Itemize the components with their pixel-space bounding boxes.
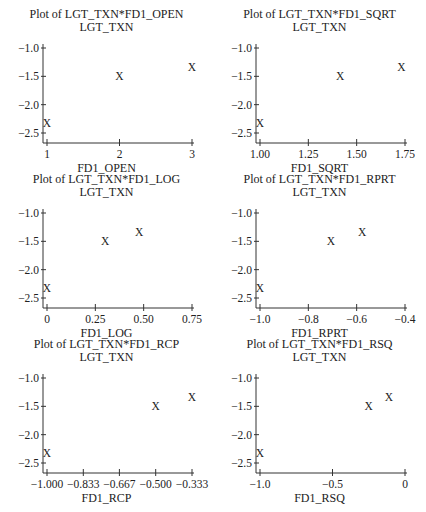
scatter-plot-panel: Plot of LGT_TXN*FD1_RCPLGT_TXN−1.0−1.5−2…: [0, 338, 213, 506]
x-tick-label: 1.50: [347, 148, 367, 160]
y-tick-label: −2.0: [18, 99, 39, 111]
y-tick-label: −1.0: [18, 42, 39, 54]
y-tick-label: −1.5: [18, 400, 39, 412]
x-tick-label: −0.833: [67, 478, 100, 490]
x-tick-label: −0.333: [176, 478, 209, 490]
x-tick-label: −0.4: [395, 313, 416, 325]
data-point-marker: X: [101, 235, 110, 247]
x-tick-label: 1.00: [250, 148, 270, 160]
x-tick-label: 2: [117, 148, 123, 160]
data-point-marker: X: [327, 235, 336, 247]
data-point-marker: X: [358, 226, 367, 238]
x-tick-label: −0.8: [298, 313, 319, 325]
data-point-marker: X: [256, 282, 265, 294]
data-point-marker: X: [365, 400, 374, 412]
data-point-marker: X: [385, 391, 394, 403]
data-point-marker: X: [43, 447, 52, 459]
scatter-plot-area: −1.0−1.5−2.0−2.5−1.000−0.833−0.667−0.500…: [0, 338, 213, 506]
x-tick-label: −1.0: [250, 313, 271, 325]
scatter-plot-area: −1.0−1.5−2.0−2.500.250.500.75XXX: [0, 173, 213, 341]
y-tick-label: −2.5: [231, 292, 252, 304]
y-tick-label: −1.5: [18, 70, 39, 82]
y-tick-label: −2.0: [231, 99, 252, 111]
x-axis-label: FD1_RSQ: [213, 491, 426, 506]
y-tick-label: −2.0: [18, 264, 39, 276]
scatter-plot-panel: Plot of LGT_TXN*FD1_RPRTLGT_TXN−1.0−1.5−…: [213, 173, 426, 341]
y-tick-label: −2.5: [18, 292, 39, 304]
y-tick-label: −2.0: [231, 429, 252, 441]
y-tick-label: −1.0: [231, 207, 252, 219]
data-point-marker: X: [115, 70, 124, 82]
x-tick-label: 3: [189, 148, 195, 160]
x-tick-label: −1.0: [250, 478, 271, 490]
y-tick-label: −2.5: [231, 127, 252, 139]
x-tick-label: 1: [44, 148, 50, 160]
y-tick-label: −1.0: [18, 372, 39, 384]
data-point-marker: X: [188, 61, 197, 73]
scatter-plot-panel: Plot of LGT_TXN*FD1_OPENLGT_TXN−1.0−1.5−…: [0, 8, 213, 176]
y-tick-label: −2.0: [18, 429, 39, 441]
data-point-marker: X: [256, 117, 265, 129]
x-tick-label: −0.5: [322, 478, 343, 490]
x-axis-label: FD1_RCP: [0, 491, 213, 506]
y-tick-label: −1.0: [231, 372, 252, 384]
y-tick-label: −1.5: [231, 70, 252, 82]
data-point-marker: X: [336, 70, 345, 82]
data-point-marker: X: [188, 391, 197, 403]
y-tick-label: −1.5: [18, 235, 39, 247]
y-tick-label: −1.0: [231, 42, 252, 54]
scatter-plot-area: −1.0−1.5−2.0−2.5−1.0−0.8−0.6−0.4XXX: [213, 173, 426, 341]
data-point-marker: X: [43, 282, 52, 294]
y-tick-label: −1.5: [231, 235, 252, 247]
scatter-plot-area: −1.0−1.5−2.0−2.5123XXX: [0, 8, 213, 176]
data-point-marker: X: [397, 61, 406, 73]
y-tick-label: −1.0: [18, 207, 39, 219]
x-tick-label: −0.667: [103, 478, 136, 490]
x-tick-label: 0.75: [182, 313, 202, 325]
data-point-marker: X: [43, 117, 52, 129]
x-tick-label: 0.25: [85, 313, 105, 325]
y-tick-label: −2.5: [18, 127, 39, 139]
y-tick-label: −2.5: [18, 457, 39, 469]
data-point-marker: X: [135, 226, 144, 238]
scatter-plot-area: −1.0−1.5−2.0−2.5−1.0−0.50XXX: [213, 338, 426, 506]
scatter-plot-panel: Plot of LGT_TXN*FD1_LOGLGT_TXN−1.0−1.5−2…: [0, 173, 213, 341]
y-tick-label: −2.5: [231, 457, 252, 469]
data-point-marker: X: [152, 400, 161, 412]
scatter-plot-area: −1.0−1.5−2.0−2.51.001.251.501.75XXX: [213, 8, 426, 176]
x-tick-label: 1.25: [298, 148, 318, 160]
scatter-plot-panel: Plot of LGT_TXN*FD1_SQRTLGT_TXN−1.0−1.5−…: [213, 8, 426, 176]
x-tick-label: 0: [402, 478, 408, 490]
y-tick-label: −2.0: [231, 264, 252, 276]
y-tick-label: −1.5: [231, 400, 252, 412]
scatter-plot-panel: Plot of LGT_TXN*FD1_RSQLGT_TXN−1.0−1.5−2…: [213, 338, 426, 506]
x-tick-label: 1.75: [395, 148, 415, 160]
x-tick-label: −0.6: [346, 313, 367, 325]
x-tick-label: 0.50: [134, 313, 154, 325]
x-tick-label: 0: [44, 313, 50, 325]
x-tick-label: −1.000: [31, 478, 64, 490]
data-point-marker: X: [256, 447, 265, 459]
x-tick-label: −0.500: [140, 478, 173, 490]
